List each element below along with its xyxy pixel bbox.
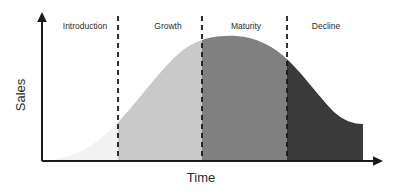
product-life-cycle-chart: Introduction Growth Maturity Decline Sal… [0,0,395,195]
stage-bands [42,10,363,161]
x-axis-arrow-icon [373,156,383,166]
stage-label-introduction: Introduction [63,21,108,31]
y-axis-arrow-icon [37,12,47,22]
y-axis-title: Sales [13,78,28,111]
stage-label-maturity: Maturity [231,21,262,31]
x-axis-title: Time [187,170,215,185]
stage-label-growth: Growth [154,21,182,31]
band-decline [287,10,363,161]
stage-label-decline: Decline [312,21,341,31]
band-growth [118,10,202,161]
band-introduction [42,10,118,161]
band-maturity [202,10,287,161]
chart-canvas: Introduction Growth Maturity Decline Sal… [0,0,395,195]
